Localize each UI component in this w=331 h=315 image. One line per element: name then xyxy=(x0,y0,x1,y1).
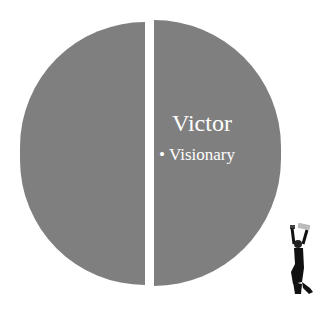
victor-title: Victor xyxy=(172,110,232,136)
bullet-item: •Visionary xyxy=(155,145,235,165)
left-half-circle xyxy=(20,22,145,285)
jumping-person-icon xyxy=(283,222,319,302)
bullet-text: Visionary xyxy=(169,145,235,164)
bullet-icon: • xyxy=(155,145,169,165)
